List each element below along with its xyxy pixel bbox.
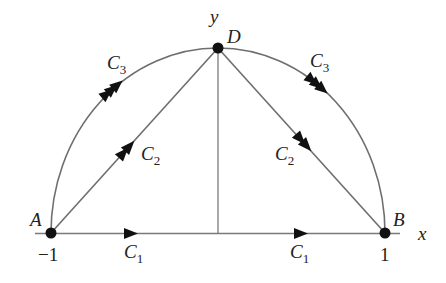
label-a: A bbox=[28, 209, 42, 230]
curve-c2-segment-ad bbox=[51, 48, 218, 233]
label-x-axis: x bbox=[417, 223, 427, 244]
point-b bbox=[380, 228, 391, 239]
c1-arrow-right bbox=[294, 228, 308, 239]
label-c1-right: C1 bbox=[290, 241, 309, 266]
arrowhead-icon bbox=[124, 228, 138, 239]
c1-arrow-left bbox=[124, 228, 138, 239]
point-d bbox=[213, 43, 224, 54]
label-c2-left: C2 bbox=[141, 143, 160, 168]
label-c3-left: C3 bbox=[107, 52, 126, 77]
label-b: B bbox=[393, 209, 405, 230]
tick-one: 1 bbox=[380, 244, 390, 265]
label-c2-right: C2 bbox=[275, 143, 294, 168]
label-d: D bbox=[226, 26, 241, 47]
label-c1-left: C1 bbox=[124, 241, 143, 266]
arrowhead-icon bbox=[294, 228, 308, 239]
label-y-axis: y bbox=[208, 6, 219, 27]
c3-arrow-left bbox=[98, 76, 126, 102]
tick-minus-one: −1 bbox=[38, 244, 58, 265]
point-a bbox=[46, 228, 57, 239]
contour-diagram: A B D y x −1 1 C3 C3 C2 C2 C1 C1 bbox=[0, 0, 446, 283]
label-c3-right: C3 bbox=[310, 50, 329, 75]
